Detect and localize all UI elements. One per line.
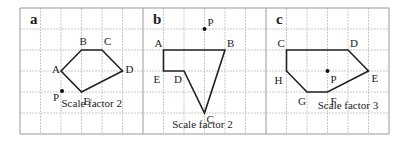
vertex-label: D xyxy=(126,63,134,75)
vertex-label: E xyxy=(154,73,161,85)
center-point xyxy=(326,69,330,73)
grid xyxy=(20,8,389,134)
vertex-label: A xyxy=(155,37,163,49)
vertex-label: G xyxy=(298,95,306,107)
vertex-label: A xyxy=(52,63,60,75)
vertex-label: D xyxy=(174,73,182,85)
scale-factor-caption: Scale factor 2 xyxy=(172,118,232,130)
center-label: P xyxy=(53,91,59,103)
shape-b xyxy=(164,50,226,113)
center-label: P xyxy=(331,73,337,85)
vertex-label: B xyxy=(80,35,87,47)
vertex-label: C xyxy=(278,37,285,49)
panel-label-a: a xyxy=(30,11,38,27)
scale-factor-caption: Scale factor 3 xyxy=(318,99,379,111)
enlargement-diagram: aABCDEPScale factor 2bABCDEPScale factor… xyxy=(0,0,408,142)
center-point xyxy=(60,89,64,93)
panel-label-c: c xyxy=(276,11,283,27)
panel-label-b: b xyxy=(153,11,161,27)
vertex-label: E xyxy=(372,72,379,84)
vertex-label: H xyxy=(275,74,283,86)
vertex-label: C xyxy=(104,35,111,47)
vertex-label: B xyxy=(227,37,234,49)
center-label: P xyxy=(208,16,214,28)
vertex-label: D xyxy=(350,37,358,49)
scale-factor-caption: Scale factor 2 xyxy=(62,97,122,109)
center-point xyxy=(203,27,207,31)
